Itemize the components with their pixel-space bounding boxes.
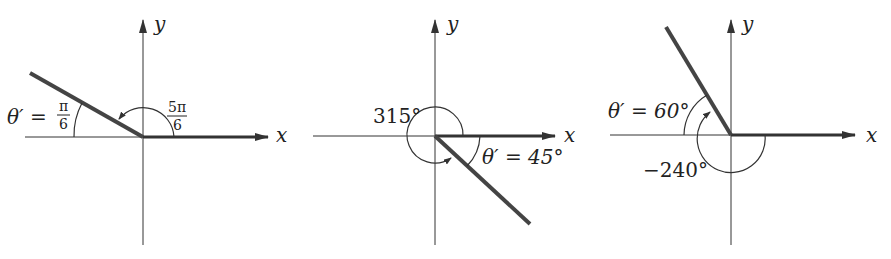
reference-angle-arc xyxy=(74,103,82,137)
reference-angle-label: θ′ = 45° xyxy=(482,145,564,169)
terminal-side xyxy=(30,73,143,137)
reference-angle-figures: x y 5π 6 θ′ = π 6 x y 315° θ′ = 45° xyxy=(0,0,891,259)
x-axis-label: x xyxy=(564,123,575,147)
x-axis-label: x xyxy=(276,123,287,147)
angle-label-numerator: 5π xyxy=(168,99,186,115)
y-axis-label: y xyxy=(446,12,459,36)
reference-angle-denominator: 6 xyxy=(59,116,68,132)
angle-arc xyxy=(119,108,174,137)
figure-2: x y 315° θ′ = 45° xyxy=(313,12,575,245)
figure-3: x y θ′ = 60° −240° xyxy=(608,12,877,245)
y-axis-label: y xyxy=(741,12,754,36)
x-axis-label: x xyxy=(866,123,877,147)
figure-1: x y 5π 6 θ′ = π 6 xyxy=(7,12,287,245)
y-axis-label: y xyxy=(153,12,166,36)
angle-label: 315° xyxy=(373,104,421,128)
reference-angle-arc xyxy=(467,136,480,166)
reference-angle-numerator: π xyxy=(59,98,68,114)
reference-angle-prefix: θ′ = xyxy=(7,105,47,129)
reference-angle-label: θ′ = 60° xyxy=(608,99,690,123)
angle-label-denominator: 6 xyxy=(173,117,182,133)
angle-label: −240° xyxy=(643,158,708,182)
